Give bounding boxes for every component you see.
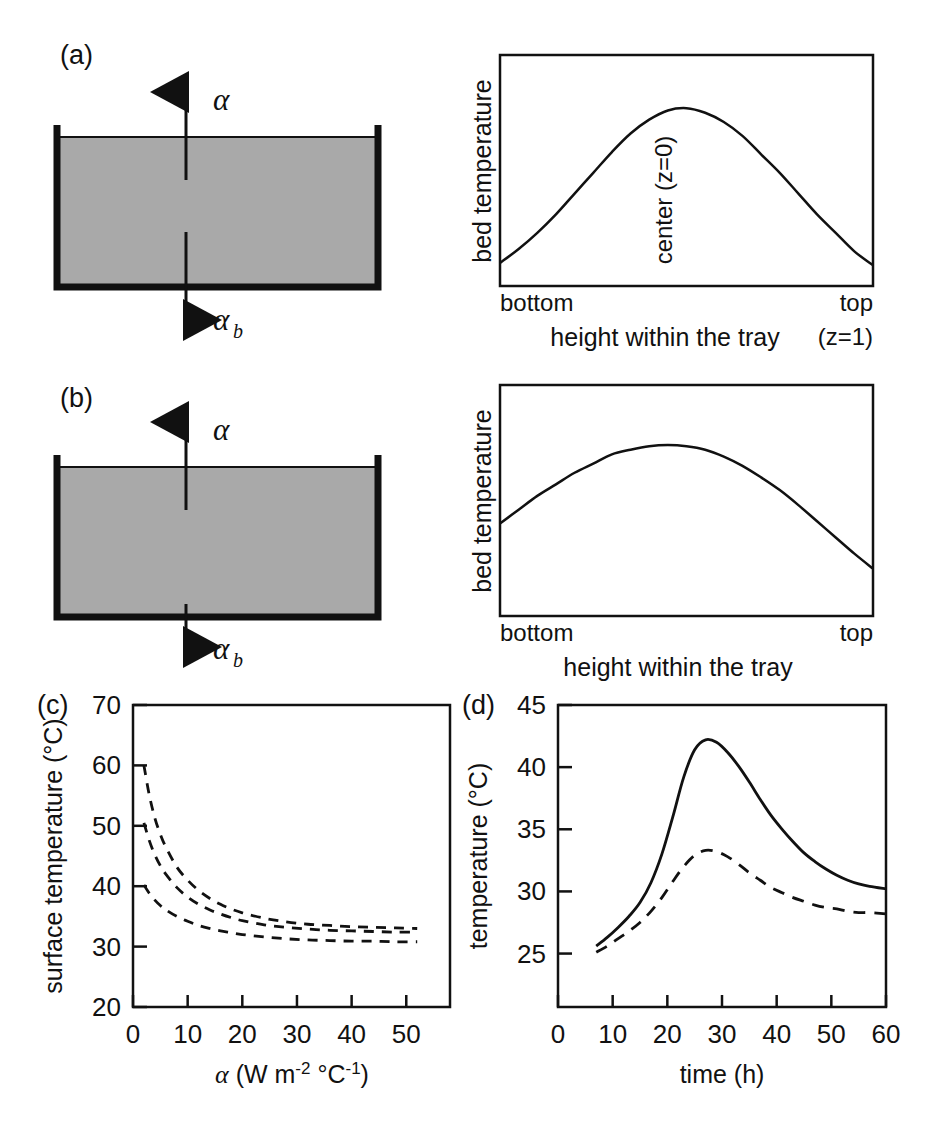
tray-walls-a (57, 125, 378, 287)
plot-frame-d (558, 705, 886, 1007)
plot-frame-b (500, 385, 873, 616)
x-tick-label: 40 (337, 1019, 366, 1049)
x-axis-label-d: time (h) (680, 1060, 765, 1088)
x-tick-label: 30 (708, 1019, 737, 1049)
x-tick-bottom-b: bottom (500, 619, 573, 646)
data-curve (596, 850, 886, 952)
panel-b-profile-chart: bed temperature bottom top height within… (468, 385, 873, 681)
x-tick-top-sublabel-a: (z=1) (818, 323, 873, 350)
x-tick-label: 60 (872, 1019, 901, 1049)
alpha-b-subscript-a: b (233, 320, 243, 342)
plot-frame-c (133, 705, 450, 1007)
alpha-label-b: α (213, 412, 230, 447)
data-curve (144, 823, 417, 932)
y-tick-label: 50 (92, 811, 121, 841)
bed-fill-b (57, 467, 378, 615)
alpha-b-label-a: α (213, 302, 230, 337)
axis-tick-labels-d: 01020304050602530354045 (517, 690, 900, 1049)
axis-ticks-d (558, 705, 886, 1007)
y-tick-label: 45 (517, 690, 546, 720)
panel-a-profile-chart: bed temperature bottom top height within… (468, 55, 873, 351)
panel-c-chart: 01020304050203040506070 surface temperat… (39, 690, 450, 1089)
x-tick-label: 30 (283, 1019, 312, 1049)
y-tick-label: 20 (92, 992, 121, 1022)
x-tick-label: 10 (598, 1019, 627, 1049)
panel-label-c: (c) (37, 690, 68, 721)
x-tick-label: 20 (653, 1019, 682, 1049)
x-tick-label: 10 (173, 1019, 202, 1049)
y-tick-label: 30 (92, 932, 121, 962)
x-axis-label-a: height within the tray (550, 323, 780, 351)
alpha-b-label-b: α (213, 631, 230, 666)
x-tick-label: 50 (392, 1019, 421, 1049)
x-axis-label-b: height within the tray (563, 653, 793, 681)
alpha-b-subscript-b: b (233, 649, 243, 671)
x-tick-label: 0 (126, 1019, 140, 1049)
panel-label-d: (d) (462, 690, 495, 721)
center-annotation-a: center (z=0) (650, 136, 677, 265)
figure-canvas: α α b bed temperature bottom top height … (0, 0, 949, 1139)
data-curve (596, 739, 886, 946)
y-axis-label-c: surface temperature (°C) (39, 718, 67, 993)
bed-temperature-curve-b (500, 445, 873, 569)
y-axis-label-d: temperature (°C) (464, 763, 492, 949)
y-axis-label-b: bed temperature (468, 409, 496, 592)
x-tick-bottom-a: bottom (500, 289, 573, 316)
y-tick-label: 70 (92, 690, 121, 720)
bed-temperature-curve-a (500, 108, 873, 265)
tray-walls-b (57, 455, 378, 617)
data-curve (144, 885, 417, 942)
y-tick-label: 60 (92, 750, 121, 780)
y-tick-label: 30 (517, 876, 546, 906)
x-tick-top-b: top (840, 619, 873, 646)
x-tick-label: 0 (551, 1019, 565, 1049)
figure-root: (a) (b) (c) (d) α α b (0, 0, 949, 1139)
y-axis-label-a: bed temperature (468, 79, 496, 262)
axis-ticks-c (133, 705, 406, 1007)
y-tick-label: 40 (92, 871, 121, 901)
y-tick-label: 40 (517, 752, 546, 782)
panel-a-tray-diagram: α α b (57, 82, 378, 342)
panel-d-chart: 01020304050602530354045 temperature (°C)… (464, 690, 900, 1088)
x-tick-label: 50 (817, 1019, 846, 1049)
surface-temperature-curves-c (144, 765, 417, 941)
alpha-label-a: α (213, 82, 230, 117)
panel-label-b: (b) (60, 383, 93, 414)
panel-label-a: (a) (60, 40, 93, 71)
bed-fill-a (57, 137, 378, 285)
panel-b-tray-diagram: α α b (57, 412, 378, 671)
x-tick-top-a: top (840, 289, 873, 316)
x-tick-label: 40 (762, 1019, 791, 1049)
plot-frame-a (500, 55, 873, 286)
data-curve (144, 765, 417, 928)
x-tick-label: 20 (228, 1019, 257, 1049)
axis-tick-labels-c: 01020304050203040506070 (92, 690, 421, 1049)
y-tick-label: 35 (517, 814, 546, 844)
x-axis-label-c: α (W m-2 °C-1) (215, 1059, 369, 1089)
y-tick-label: 25 (517, 939, 546, 969)
temperature-curves-d (596, 739, 886, 952)
